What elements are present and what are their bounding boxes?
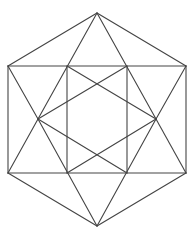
background [0, 0, 195, 235]
geometric-figure [0, 0, 195, 235]
